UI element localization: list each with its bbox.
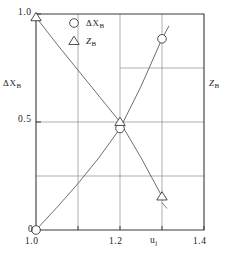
- x-axis-label: uj: [150, 236, 157, 246]
- legend-entry-1-main: Z: [86, 36, 92, 46]
- y-axis-label-right-sub: B: [215, 82, 220, 90]
- y-axis-label-left-main: ΔX: [3, 78, 17, 88]
- legend-entry-1-label: ZB: [86, 37, 96, 46]
- x-tick-label-mid: 1.2: [109, 237, 123, 247]
- legend-entry-0-sub: B: [100, 22, 105, 30]
- legend-entry-1-sub: B: [92, 40, 97, 48]
- series-curve-0: [36, 39, 162, 230]
- data-markers: [31, 12, 167, 234]
- legend-entry-0-main: ΔX: [86, 18, 100, 28]
- y-axis-label-left-sub: B: [17, 82, 22, 90]
- legend-marker-circle: [70, 19, 79, 28]
- x-tick-label-left: 1.0: [25, 237, 39, 247]
- legend-markers: [69, 19, 79, 45]
- marker-leader-line: [162, 203, 167, 209]
- legend-entry-0-label: ΔXB: [86, 19, 104, 28]
- legend-marker-triangle: [69, 36, 79, 44]
- x-tick-label-right: 1.4: [193, 237, 207, 247]
- annotations: [162, 203, 167, 209]
- chart-figure: 1.0 0.5 0 1.0 1.2 1.4 uj ΔXB ZB ΔXB ZB: [0, 0, 232, 260]
- y-tick-label-mid: 0.5: [18, 115, 32, 125]
- y-axis-label-right-main: Z: [209, 78, 215, 88]
- y-axis-label-left: ΔXB: [3, 79, 21, 88]
- chart-canvas: [0, 0, 232, 260]
- y-tick-label-top: 1.0: [18, 8, 32, 18]
- y-tick-label-bottom: 0: [28, 225, 33, 235]
- series-curve-1: [36, 17, 162, 196]
- data-series: [36, 17, 169, 230]
- data-marker-triangle-2: [157, 192, 167, 200]
- data-marker-circle-2: [158, 35, 167, 44]
- y-axis-label-right: ZB: [209, 79, 219, 88]
